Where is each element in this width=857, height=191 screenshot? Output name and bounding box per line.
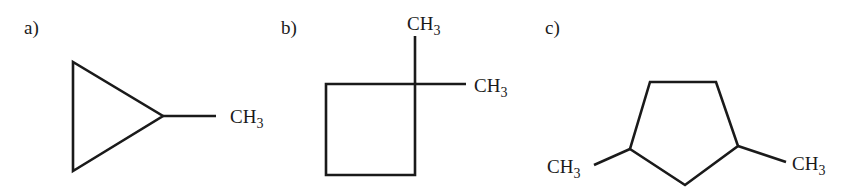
methyl-group-label-left: CH3: [547, 156, 580, 181]
panel-label-b: b): [281, 17, 297, 39]
structures-figure: a) CH3 b) CH3 CH3 c) CH3 CH3: [0, 0, 857, 191]
cyclopentane-ring: [630, 82, 738, 185]
methyl-group-label-top: CH3: [407, 13, 440, 38]
panel-label-c: c): [545, 17, 560, 39]
methyl-bond-right: [738, 146, 786, 162]
methyl-group-label: CH3: [230, 106, 263, 131]
methyl-group-label-right: CH3: [474, 75, 507, 100]
methyl-bond-left: [594, 149, 630, 165]
cyclobutane-ring: [326, 84, 415, 175]
panel-a: a) CH3: [24, 17, 263, 171]
panel-c: c) CH3 CH3: [545, 17, 825, 185]
cyclopropane-ring: [73, 62, 163, 171]
methyl-group-label-right: CH3: [792, 153, 825, 178]
panel-label-a: a): [24, 17, 39, 39]
panel-b: b) CH3 CH3: [281, 13, 507, 175]
